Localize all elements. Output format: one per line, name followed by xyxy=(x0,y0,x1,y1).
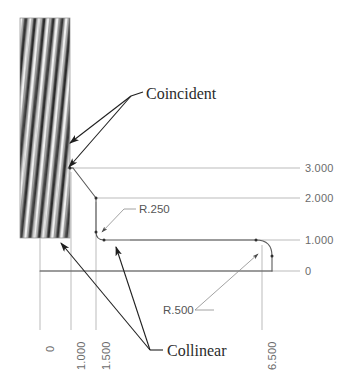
technical-drawing-canvas: 3.000 2.000 1.000 0 0 1.000 1.500 6.500 … xyxy=(0,0,351,383)
drawing-svg xyxy=(0,0,351,383)
radius-250-leader xyxy=(102,209,136,232)
dim-label-y-0: 0 xyxy=(305,265,311,277)
profile-vertex-points xyxy=(69,167,274,258)
radius-label-r250: R.250 xyxy=(139,203,170,215)
coincident-leader-lines xyxy=(69,92,143,167)
dim-label-y-1000: 1.000 xyxy=(305,234,334,246)
dim-label-x-0: 0 xyxy=(44,346,56,352)
note-label-collinear: Collinear xyxy=(167,342,227,360)
dim-label-y-2000: 2.000 xyxy=(305,192,334,204)
dim-label-x-6500: 6.500 xyxy=(266,341,278,370)
dim-label-y-3000: 3.000 xyxy=(305,162,334,174)
radius-500-leader xyxy=(195,254,258,310)
note-label-coincident: Coincident xyxy=(146,85,216,103)
vertical-dimension-lines xyxy=(40,172,262,330)
dim-label-x-1000: 1.000 xyxy=(75,341,87,370)
horizontal-dimension-lines xyxy=(40,168,300,271)
dim-label-x-1500: 1.500 xyxy=(100,341,112,370)
collinear-leader-lines xyxy=(61,243,163,350)
sketch-profile xyxy=(40,168,272,271)
fixed-wall-hatch xyxy=(20,18,70,238)
radius-label-r500: R.500 xyxy=(163,304,194,316)
